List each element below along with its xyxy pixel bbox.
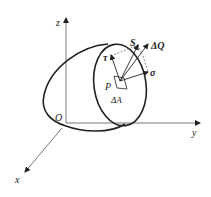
vector-delta-q xyxy=(120,44,148,81)
delta-q-label: ΔQ xyxy=(150,40,165,51)
z-label: z xyxy=(55,17,60,28)
s-label: S xyxy=(130,37,136,48)
area-label: ΔA xyxy=(110,95,122,105)
vector-s xyxy=(120,45,138,81)
sigma-label: σ xyxy=(150,67,156,78)
area-element xyxy=(114,76,127,89)
stress-diagram: z y x O P ΔA S ΔQ τ σ xyxy=(0,0,211,197)
x-label: x xyxy=(14,174,20,185)
tau-label: τ xyxy=(103,52,108,63)
x-axis xyxy=(25,128,62,172)
origin-label: O xyxy=(55,112,62,123)
y-label: y xyxy=(191,127,197,138)
point-label: P xyxy=(104,81,111,92)
